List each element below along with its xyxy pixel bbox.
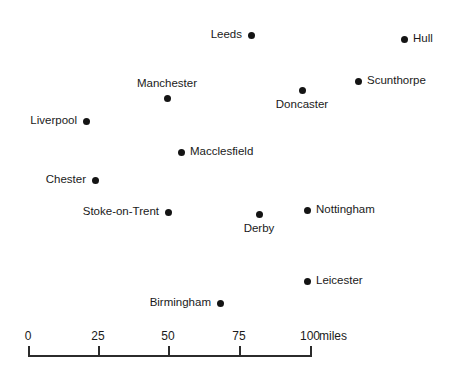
city-label: Derby — [244, 223, 275, 235]
city-scatter-map: LeedsHullScunthorpeManchesterDoncasterLi… — [0, 0, 460, 381]
city-label: Macclesfield — [190, 146, 253, 158]
scale-tick — [28, 346, 30, 357]
scale-tick-label: 50 — [161, 330, 174, 342]
scale-tick-label: 75 — [232, 330, 245, 342]
city-label: Nottingham — [316, 204, 375, 216]
city-dot-icon — [83, 118, 90, 125]
city-label: Hull — [413, 33, 433, 45]
scale-tick-label: 25 — [91, 330, 104, 342]
city-dot-icon — [92, 177, 99, 184]
city-label: Manchester — [137, 78, 197, 90]
scale-tick-label: 100 — [300, 330, 320, 342]
city-dot-icon — [248, 32, 255, 39]
city-label: Doncaster — [276, 99, 328, 111]
city-label: Stoke-on-Trent — [83, 206, 159, 218]
scale-tick — [239, 346, 241, 357]
city-dot-icon — [178, 149, 185, 156]
city-label: Leicester — [316, 275, 363, 287]
city-label: Chester — [46, 174, 86, 186]
scale-tick — [168, 346, 170, 357]
city-dot-icon — [304, 207, 311, 214]
scale-tick — [310, 346, 312, 357]
city-dot-icon — [165, 209, 172, 216]
city-dot-icon — [164, 95, 171, 102]
scale-tick-label: 0 — [25, 330, 32, 342]
city-dot-icon — [355, 78, 362, 85]
scale-tick — [98, 346, 100, 357]
city-label: Liverpool — [30, 115, 77, 127]
city-dot-icon — [304, 278, 311, 285]
city-dot-icon — [256, 211, 263, 218]
city-label: Scunthorpe — [367, 75, 426, 87]
scale-units-label: miles — [319, 330, 347, 342]
city-dot-icon — [299, 87, 306, 94]
city-label: Leeds — [211, 29, 242, 41]
city-dot-icon — [217, 300, 224, 307]
city-label: Birmingham — [150, 297, 211, 309]
city-dot-icon — [401, 36, 408, 43]
